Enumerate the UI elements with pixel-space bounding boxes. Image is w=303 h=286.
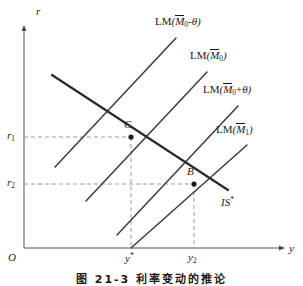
lm3-close: ): [248, 83, 252, 95]
figure-caption: 图 21-3 利率变动的推论: [0, 270, 303, 286]
tick-label-y2: y2: [188, 252, 197, 265]
origin-label: O: [8, 252, 16, 263]
tick-label-r1: r1: [7, 130, 15, 143]
tick-ystar-sup: *: [130, 251, 134, 260]
lm3-bar-var: M: [223, 84, 232, 95]
curve-label-lm-m0: LM(M0): [190, 50, 227, 63]
lm-curves: [55, 38, 247, 248]
y-axis-label: r: [36, 6, 40, 17]
curve-label-is-star: IS*: [221, 196, 234, 208]
lm2-bar-var: M: [210, 50, 219, 61]
curve-label-lm-m0-minus-theta: LM(M0-θ): [155, 16, 201, 29]
tick-r1-sub: 1: [11, 135, 15, 143]
lm4-bar-var: M: [236, 124, 245, 135]
tick-label-r2: r2: [7, 177, 15, 190]
curve-label-lm-m1: LM(M1): [216, 124, 253, 137]
guide-lines: [24, 137, 194, 248]
is-sup: *: [230, 195, 234, 204]
tick-y2-sub: 2: [193, 257, 197, 265]
lm2-prefix: LM: [190, 49, 207, 61]
lm-curve-m0-minus-theta: [55, 38, 176, 167]
tick-r2-sub: 2: [11, 182, 15, 190]
lm4-close: ): [249, 123, 253, 135]
lm1-bar-var: M: [175, 16, 184, 27]
lm4-prefix: LM: [216, 123, 233, 135]
point-b-marker: [191, 181, 196, 186]
point-c-marker: [128, 134, 133, 139]
curve-label-lm-m0-plus-theta: LM(M0+θ): [203, 84, 251, 97]
point-label-b: B: [187, 166, 194, 177]
tick-label-ystar: y*: [125, 252, 134, 264]
lm1-close: ): [197, 15, 201, 27]
point-label-c: C: [124, 119, 131, 130]
lm3-prefix: LM: [203, 83, 220, 95]
lm2-close: ): [223, 49, 227, 61]
is-curve: [52, 75, 228, 190]
lm1-prefix: LM: [155, 15, 172, 27]
x-axis-label: y: [289, 243, 294, 254]
is-prefix: IS: [221, 196, 230, 208]
